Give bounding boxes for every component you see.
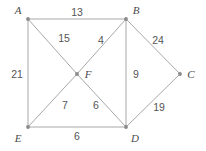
edge-weight-b-c: 24 [152, 35, 164, 46]
edge-weight-b-f: 4 [98, 35, 104, 46]
edge-weight-e-d: 6 [74, 131, 80, 142]
edge-weight-f-d: 6 [93, 100, 99, 111]
vertex-label-e: E [15, 133, 22, 144]
edge-weight-b-d: 9 [133, 69, 139, 80]
vertex-label-a: A [15, 5, 22, 16]
edge-weight-a-e: 21 [11, 69, 23, 80]
edge-weight-a-f: 15 [58, 33, 70, 44]
vertex-label-f: F [85, 69, 92, 80]
graph-diagram: 131542492176196 ABCDEF [0, 0, 206, 151]
vertex-label-c: C [187, 69, 194, 80]
edge-weight-e-f: 7 [62, 100, 68, 111]
vertex-label-d: D [131, 133, 139, 144]
edge-weight-a-b: 13 [71, 7, 83, 18]
edge-weight-c-d: 19 [153, 102, 165, 113]
vertex-label-b: B [133, 5, 140, 16]
labels-layer: 131542492176196 ABCDEF [0, 0, 206, 151]
